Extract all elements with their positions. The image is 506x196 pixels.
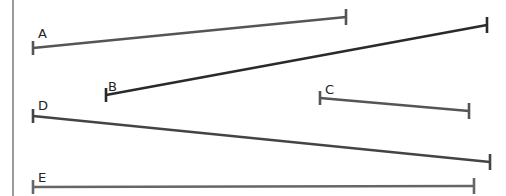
segment-line bbox=[33, 186, 474, 187]
segment-d: D bbox=[33, 98, 490, 170]
segment-line bbox=[33, 116, 490, 162]
segment-b: B bbox=[106, 17, 487, 102]
segment-c: C bbox=[320, 82, 469, 119]
segments-diagram: A B C D E bbox=[0, 0, 506, 196]
segment-a: A bbox=[33, 9, 346, 55]
segment-line bbox=[33, 17, 346, 48]
segment-label: D bbox=[38, 98, 48, 113]
segment-label: B bbox=[108, 79, 117, 94]
diagram-canvas: A B C D E bbox=[0, 0, 506, 196]
segment-line bbox=[320, 98, 469, 111]
segment-label: E bbox=[38, 170, 46, 185]
segment-label: C bbox=[325, 82, 334, 97]
segment-e: E bbox=[33, 170, 474, 194]
segment-label: A bbox=[38, 26, 47, 41]
